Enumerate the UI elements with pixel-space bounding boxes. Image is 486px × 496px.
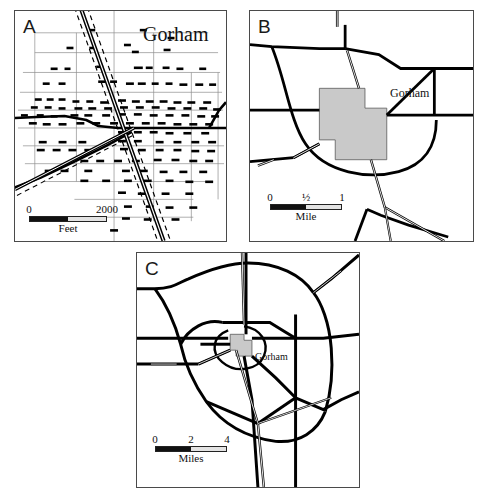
scale-seg-dark [30, 217, 68, 221]
panel-b-place-label: Gorham [390, 86, 429, 101]
panel-c-scale-ticks: 0 2 4 [155, 433, 227, 446]
panel-a-tick-0: 0 [26, 203, 32, 215]
panel-b-tick-2: 1 [339, 191, 345, 203]
panel-c-place-label: Gorham [255, 351, 288, 362]
panel-a: A Gorham 0 2000 Feet [14, 10, 227, 242]
scale-seg-light [306, 205, 341, 209]
panel-c-tick-2: 4 [224, 433, 230, 445]
panel-c-scale-unit: Miles [155, 452, 227, 464]
scale-seg-light [191, 447, 226, 451]
scale-seg-light [68, 217, 106, 221]
panel-a-scale-ticks: 0 2000 [29, 203, 107, 216]
panel-c-letter: C [145, 259, 159, 278]
panel-b: B Gorham 0 ½ 1 Mile [249, 10, 474, 242]
figure-three-panel-map: A Gorham 0 2000 Feet [0, 0, 486, 496]
panel-c-scalebar: 0 2 4 Miles [155, 433, 227, 464]
panel-b-tick-1: ½ [302, 191, 310, 203]
panel-a-letter: A [23, 17, 36, 36]
panel-c: C Gorham 0 2 4 Miles [136, 252, 360, 488]
panel-a-scale-unit: Feet [29, 222, 107, 234]
panel-a-tick-1: 2000 [96, 203, 118, 215]
panel-c-tick-0: 0 [152, 433, 158, 445]
panel-b-letter: B [258, 17, 271, 36]
panel-c-scale-bar [155, 446, 227, 452]
panel-c-tick-1: 2 [188, 433, 194, 445]
panel-b-scalebar: 0 ½ 1 Mile [270, 191, 342, 222]
scale-seg-dark [156, 447, 191, 451]
panel-a-scale-bar [29, 216, 107, 222]
panel-b-scale-bar [270, 204, 342, 210]
panel-a-title: Gorham [143, 23, 209, 46]
urban-area-polygon [319, 88, 386, 159]
panel-b-scale-ticks: 0 ½ 1 [270, 191, 342, 204]
panel-b-scale-unit: Mile [270, 210, 342, 222]
scale-seg-dark [271, 205, 306, 209]
panel-b-tick-0: 0 [267, 191, 273, 203]
panel-a-scalebar: 0 2000 Feet [29, 203, 107, 234]
urban-area-polygon [230, 334, 252, 356]
